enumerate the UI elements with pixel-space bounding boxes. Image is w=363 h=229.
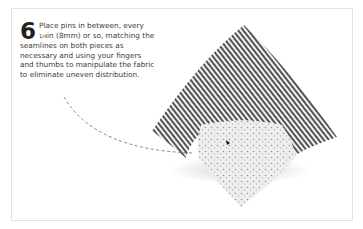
print-fabric bbox=[198, 121, 296, 208]
fabric-illustration bbox=[0, 0, 363, 229]
